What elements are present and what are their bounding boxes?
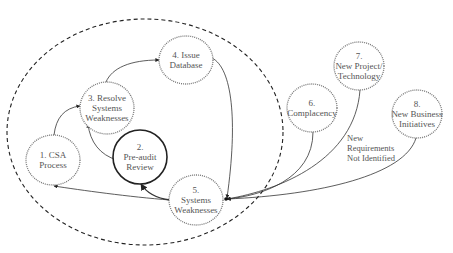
node-n5-label: 5.SystemsWeaknesses <box>174 185 217 215</box>
edge-label-line: Not Identified <box>347 153 395 163</box>
edge-n3-to-n4 <box>106 60 159 82</box>
node-n8-label: 8.New BusinessInitiatives <box>391 99 442 129</box>
edge-label-line: Requirements <box>347 143 395 153</box>
node-label-line: 5. <box>174 185 217 195</box>
node-label-line: Database <box>170 60 203 70</box>
node-label-line: Pre-audit <box>124 152 157 162</box>
edge-n6-to-n5 <box>227 132 313 199</box>
node-label-line: 1. CSA <box>39 150 67 160</box>
node-n3-label: 3. ResolveSystemsWeaknesses <box>85 93 128 123</box>
node-label-line: Technology <box>335 71 382 81</box>
diagram-canvas <box>0 0 453 253</box>
node-label-line: Weaknesses <box>85 113 128 123</box>
node-label-line: Systems <box>85 103 128 113</box>
edge-n4-to-n5 <box>212 58 232 198</box>
node-label-line: 4. Issue <box>170 50 203 60</box>
node-label-line: Process <box>39 160 67 170</box>
convergence-point <box>224 197 228 201</box>
node-n7-label: 7.New Project/Technology <box>335 51 382 81</box>
node-label-line: New Business <box>391 109 442 119</box>
node-label-line: Complacency <box>287 108 336 118</box>
node-label-line: 7. <box>335 51 382 61</box>
node-label-line: Weaknesses <box>174 205 217 215</box>
node-label-line: 3. Resolve <box>85 93 128 103</box>
node-label-line: Review <box>124 162 157 172</box>
node-n4-label: 4. IssueDatabase <box>170 50 203 70</box>
node-n2-label: 2.Pre-auditReview <box>124 142 157 172</box>
node-n1-label: 1. CSAProcess <box>39 150 67 170</box>
edge-n1-to-n3 <box>54 106 80 135</box>
edge-label: NewRequirementsNot Identified <box>347 133 395 163</box>
node-label-line: Systems <box>174 195 217 205</box>
edge-label-line: New <box>347 133 395 143</box>
node-label-line: Initiatives <box>391 119 442 129</box>
edge-n5-to-n1 <box>54 186 170 200</box>
node-label-line: New Project/ <box>335 61 382 71</box>
node-label-line: 6. <box>287 98 336 108</box>
node-label-line: 2. <box>124 142 157 152</box>
node-label-line: 8. <box>391 99 442 109</box>
node-n6-label: 6.Complacency <box>287 98 336 118</box>
